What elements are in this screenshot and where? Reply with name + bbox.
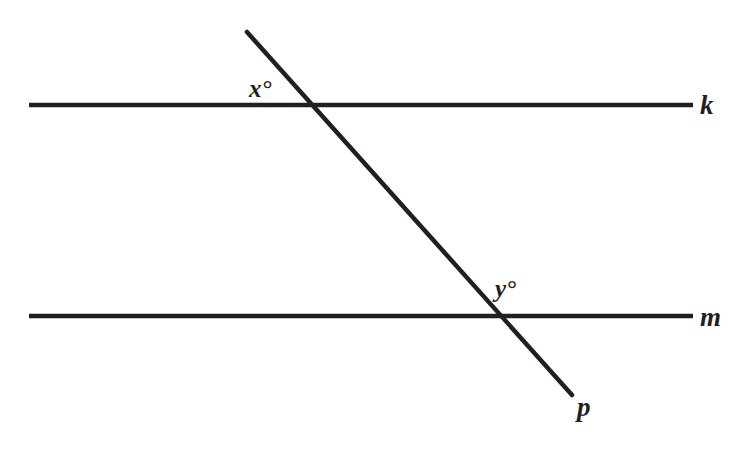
transversal-p-stroke [247, 32, 572, 395]
transversal-label-p: p [577, 394, 591, 421]
angle-label-x: x° [249, 76, 272, 101]
geometry-figure: k m p x° y° [0, 0, 741, 461]
line-label-m: m [700, 304, 721, 331]
angle-label-y: y° [495, 276, 516, 301]
line-label-k: k [700, 92, 714, 119]
geometry-canvas [0, 0, 741, 461]
